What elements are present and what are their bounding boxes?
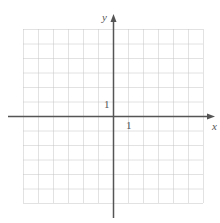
coordinate-plane: x y 1 1 bbox=[0, 0, 220, 223]
x-unit-label: 1 bbox=[126, 119, 132, 131]
y-axis-arrow-icon bbox=[111, 14, 117, 22]
y-unit-label: 1 bbox=[104, 98, 110, 110]
x-axis-arrow-icon bbox=[207, 114, 215, 120]
x-axis-label: x bbox=[211, 120, 217, 132]
y-axis-label: y bbox=[101, 11, 107, 23]
